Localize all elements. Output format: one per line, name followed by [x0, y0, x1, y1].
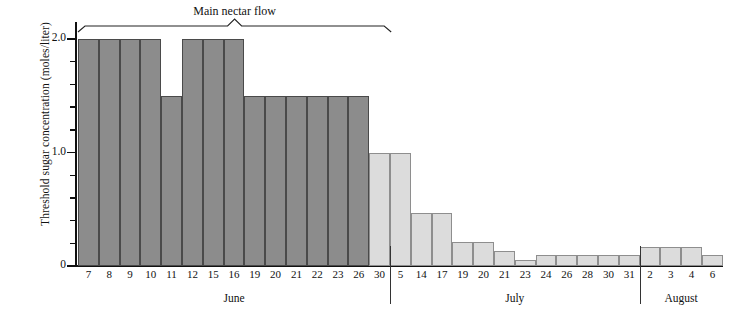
bar-28-24: [577, 255, 598, 266]
bar-4-29: [681, 247, 702, 266]
month-separator: [640, 246, 641, 304]
bar-20-9: [265, 96, 286, 266]
bar-30-14: [369, 153, 390, 266]
bar-21-10: [286, 96, 307, 266]
bar-16-7: [224, 39, 245, 266]
nectar-flow-bracket-label: Main nectar flow: [115, 4, 355, 19]
bar-7-0: [78, 39, 99, 266]
bar-30-25: [598, 255, 619, 266]
bar-19-18: [452, 242, 473, 266]
bar-20-19: [473, 242, 494, 266]
month-label-july: July: [470, 292, 560, 304]
bar-23-21: [515, 260, 536, 266]
month-separator: [390, 246, 391, 304]
bar-24-22: [536, 255, 557, 266]
bar-31-26: [619, 255, 640, 266]
bar-8-1: [99, 39, 120, 266]
bar-15-6: [203, 39, 224, 266]
bar-chart: Threshold sugar concentration (moles/lit…: [0, 0, 754, 321]
bar-14-16: [411, 213, 432, 266]
month-label-june: June: [189, 292, 279, 304]
bar-17-17: [432, 213, 453, 266]
bar-23-12: [328, 96, 349, 266]
bar-22-11: [307, 96, 328, 266]
bar-21-20: [494, 251, 515, 266]
bar-6-30: [702, 255, 723, 266]
bar-5-15: [390, 153, 411, 266]
month-label-august: August: [636, 292, 726, 304]
bar-3-28: [660, 247, 681, 266]
bar-9-2: [120, 39, 141, 266]
bar-26-23: [556, 255, 577, 266]
x-tick-label: 6: [698, 268, 727, 280]
bar-12-5: [182, 39, 203, 266]
bar-10-3: [140, 39, 161, 266]
bar-19-8: [244, 96, 265, 266]
bar-26-13: [348, 96, 369, 266]
bar-11-4: [161, 96, 182, 266]
bar-2-27: [640, 247, 661, 266]
plot-area: [78, 22, 723, 266]
